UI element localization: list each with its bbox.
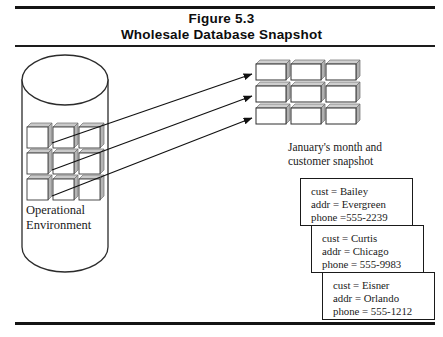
- snapshot-record-cell: [291, 60, 325, 80]
- snapshot-record-cell: [291, 82, 325, 102]
- operational-record-cell: [27, 123, 52, 148]
- bottom-rule: [15, 322, 435, 325]
- snapshot-record-cell: [291, 104, 325, 124]
- record-cust-line: cust = Eisner: [333, 279, 434, 292]
- operational-record-cell: [27, 149, 52, 174]
- snapshot-caption-line-2: customer snapshot: [288, 154, 438, 168]
- record-phone-line: phone =555-2239: [311, 211, 412, 224]
- record-addr-line: addr = Orlando: [333, 292, 434, 305]
- operational-record-grid: [27, 123, 104, 200]
- snapshot-record-cell: [256, 60, 290, 80]
- snapshot-caption-line-1: January's month and: [288, 140, 438, 154]
- record-cust-line: cust = Curtis: [322, 232, 423, 245]
- record-phone-line: phone = 555-9983: [322, 258, 423, 271]
- operational-environment-label: Operational Environment: [26, 203, 106, 233]
- snapshot-record-grid: [256, 60, 360, 124]
- snapshot-record-cell: [326, 104, 360, 124]
- record-addr-line: addr = Chicago: [322, 245, 423, 258]
- snapshot-caption: January's month and customer snapshot: [288, 140, 438, 168]
- record-phone-line: phone = 555-1212: [333, 305, 434, 318]
- record-addr-line: addr = Evergreen: [311, 198, 412, 211]
- customer-record-box: cust = Eisner addr = Orlando phone = 555…: [322, 272, 435, 320]
- record-cust-line: cust = Bailey: [311, 185, 412, 198]
- figure-canvas: Figure 5.3 Wholesale Database Snapshot: [0, 0, 443, 337]
- operational-record-cell: [27, 175, 52, 200]
- operational-environment-label-line-1: Operational: [26, 203, 106, 218]
- snapshot-record-cell: [326, 60, 360, 80]
- snapshot-record-cell: [256, 82, 290, 102]
- operational-record-cell: [79, 175, 104, 200]
- snapshot-record-cell: [326, 82, 360, 102]
- customer-record-box: cust = Curtis addr = Chicago phone = 555…: [311, 225, 424, 273]
- snapshot-record-cell: [256, 104, 290, 124]
- operational-environment-label-line-2: Environment: [26, 218, 106, 233]
- customer-record-box: cust = Bailey addr = Evergreen phone =55…: [300, 178, 413, 226]
